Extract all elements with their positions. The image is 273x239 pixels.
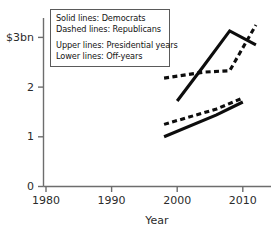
- legend-item-upper-presidential: Upper lines: Presidential years: [56, 40, 165, 51]
- chart-legend: Solid lines: Democrats Dashed lines: Rep…: [50, 9, 170, 67]
- legend-item-dashed-republicans: Dashed lines: Republicans: [56, 24, 165, 35]
- y-tick-label-0: 0: [27, 180, 34, 193]
- x-tick-label-1990: 1990: [98, 194, 126, 207]
- x-tick-label-2010: 2010: [229, 194, 257, 207]
- x-tick-label-2000: 2000: [163, 194, 191, 207]
- y-tick-label-3: $3bn: [6, 31, 34, 44]
- x-tick-label-1980: 1980: [32, 194, 60, 207]
- legend-item-solid-democrats: Solid lines: Democrats: [56, 13, 165, 24]
- series-democrats-presidential: [177, 31, 256, 101]
- chart-page: 0 1 2 $3bn 1980 1990 2000 2010 Year Soli…: [0, 0, 273, 239]
- x-axis-title: Year: [144, 214, 169, 227]
- y-tick-label-2: 2: [27, 81, 34, 94]
- legend-item-lower-offyears: Lower lines: Off-years: [56, 51, 165, 62]
- y-tick-label-1: 1: [27, 130, 34, 143]
- series-group: [164, 25, 256, 137]
- series-republicans-presidential: [164, 25, 256, 78]
